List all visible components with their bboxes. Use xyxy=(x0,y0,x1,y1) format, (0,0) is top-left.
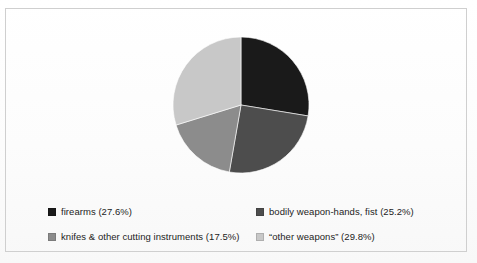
legend-label-knifes: knifes & other cutting instruments (17.5… xyxy=(61,232,239,242)
legend-swatch-bodily-weapon xyxy=(256,208,264,216)
legend-item-other-weapons[interactable]: “other weapons” (29.8%) xyxy=(256,232,456,242)
pie-chart-figure: firearms (27.6%) bodily weapon-hands, fi… xyxy=(0,0,477,263)
pie-slice[interactable] xyxy=(229,105,308,173)
legend-item-firearms[interactable]: firearms (27.6%) xyxy=(48,207,256,217)
legend-label-bodily-weapon: bodily weapon-hands, fist (25.2%) xyxy=(269,207,414,217)
legend-label-other-weapons: “other weapons” (29.8%) xyxy=(269,232,375,242)
legend-item-bodily-weapon[interactable]: bodily weapon-hands, fist (25.2%) xyxy=(256,207,456,217)
pie-plot-area xyxy=(0,0,477,190)
legend-swatch-other-weapons xyxy=(256,233,264,241)
legend-swatch-firearms xyxy=(48,208,56,216)
pie-slice-group xyxy=(173,37,309,173)
legend-item-knifes[interactable]: knifes & other cutting instruments (17.5… xyxy=(48,232,256,242)
pie-chart-svg xyxy=(170,34,312,176)
legend-swatch-knifes xyxy=(48,233,56,241)
legend-label-firearms: firearms (27.6%) xyxy=(61,207,132,217)
chart-legend: firearms (27.6%) bodily weapon-hands, fi… xyxy=(48,199,448,249)
pie-slice[interactable] xyxy=(241,37,309,116)
